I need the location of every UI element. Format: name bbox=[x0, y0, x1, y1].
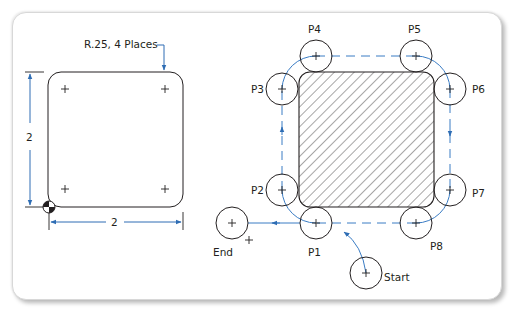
label-p1: P1 bbox=[308, 246, 321, 258]
label-p7: P7 bbox=[472, 187, 485, 199]
label-start: Start bbox=[384, 271, 410, 283]
corner-center-marks bbox=[61, 85, 169, 193]
label-end: End bbox=[213, 246, 233, 258]
label-p3: P3 bbox=[251, 83, 264, 95]
radius-callout: R.25, 4 Places bbox=[84, 38, 164, 70]
origin-symbol-icon bbox=[43, 201, 55, 213]
label-p4: P4 bbox=[308, 23, 321, 35]
label-p2: P2 bbox=[251, 184, 264, 196]
hatched-part bbox=[299, 72, 434, 207]
part-outline-left bbox=[48, 72, 183, 207]
vertical-dimension-value: 2 bbox=[26, 131, 33, 143]
vertical-dimension: 2 bbox=[25, 72, 44, 207]
label-p8: P8 bbox=[430, 240, 443, 252]
diagram-canvas: R.25, 4 Places 2 2 bbox=[0, 0, 512, 310]
radius-callout-text: R.25, 4 Places bbox=[84, 38, 158, 50]
label-p6: P6 bbox=[472, 83, 485, 95]
label-p5: P5 bbox=[408, 23, 421, 35]
horizontal-dimension-value: 2 bbox=[111, 216, 118, 228]
horizontal-dimension: 2 bbox=[49, 212, 183, 230]
